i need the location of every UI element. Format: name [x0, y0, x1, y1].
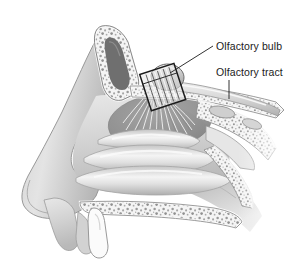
- edge-fade-bottom: [120, 226, 295, 272]
- label-olfactory-tract: Olfactory tract: [216, 67, 283, 78]
- anatomy-figure: Olfactory bulb Olfactory tract: [0, 0, 295, 272]
- label-olfactory-bulb: Olfactory bulb: [216, 41, 282, 52]
